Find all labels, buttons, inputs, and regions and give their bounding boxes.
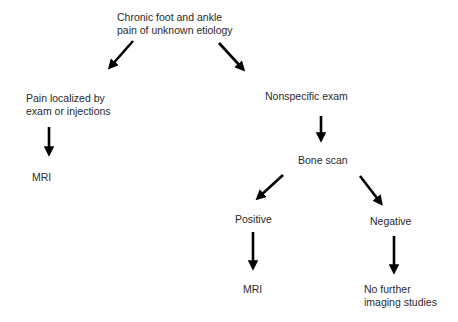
node-bone-scan: Bone scan <box>298 154 348 167</box>
node-localized: Pain localized by exam or injections <box>26 92 111 118</box>
node-localized-result-label: MRI <box>32 171 51 184</box>
node-negative-result: No further imaging studies <box>364 283 437 309</box>
node-root-line1: Chronic foot and ankle <box>117 11 233 24</box>
node-localized-line1: Pain localized by <box>26 92 111 105</box>
node-nonspecific: Nonspecific exam <box>265 90 348 103</box>
flowchart-arrows <box>0 0 458 322</box>
node-positive: Positive <box>235 213 272 226</box>
node-positive-result-label: MRI <box>243 283 262 296</box>
arrow-bone-scan-to-negative <box>360 176 380 202</box>
node-negative: Negative <box>370 215 411 228</box>
node-positive-result: MRI <box>243 283 262 296</box>
node-negative-result-line2: imaging studies <box>364 296 437 309</box>
arrow-bone-scan-to-positive <box>259 175 283 197</box>
node-negative-label: Negative <box>370 215 411 228</box>
node-root: Chronic foot and ankle pain of unknown e… <box>117 11 233 37</box>
node-negative-result-line1: No further <box>364 283 437 296</box>
arrow-root-to-nonspecific <box>219 43 242 68</box>
node-localized-line2: exam or injections <box>26 105 111 118</box>
node-bone-scan-label: Bone scan <box>298 154 348 167</box>
node-root-line2: pain of unknown etiology <box>117 24 233 37</box>
node-localized-result: MRI <box>32 171 51 184</box>
node-nonspecific-label: Nonspecific exam <box>265 90 348 103</box>
node-positive-label: Positive <box>235 213 272 226</box>
arrow-root-to-localized <box>111 41 133 66</box>
